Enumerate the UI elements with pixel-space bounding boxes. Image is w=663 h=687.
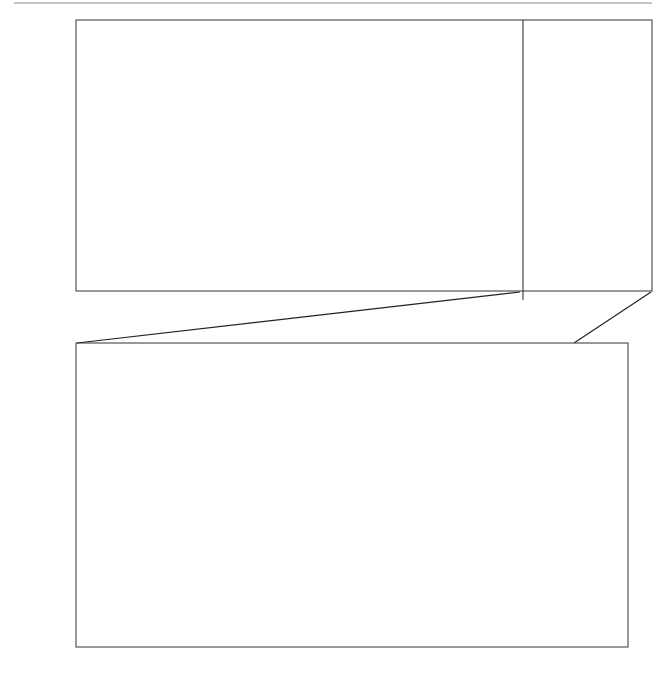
top-chart-panel (0, 20, 652, 300)
bottom-chart-panel (76, 343, 628, 647)
bottom-plot-frame (76, 343, 628, 647)
zoom-connector-right (574, 292, 651, 343)
figure-caption (14, 676, 654, 687)
top-plot-frame (76, 20, 652, 291)
zoom-connector-left (77, 292, 520, 343)
figure (0, 0, 663, 687)
